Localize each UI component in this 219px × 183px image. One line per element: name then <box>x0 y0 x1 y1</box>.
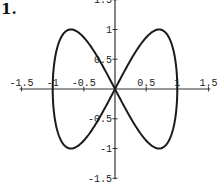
x-tick-label: -1.5 <box>10 78 34 89</box>
x-tick-label: 1.5 <box>199 78 217 89</box>
y-tick-label: -1 <box>100 144 112 155</box>
x-tick-label: -0.5 <box>72 78 96 89</box>
x-tick-label: 0.5 <box>137 78 155 89</box>
y-tick-label: -1.5 <box>88 174 112 183</box>
parametric-plot: -1.5-1-0.50.511.51.510.5-0.5-1-1.5 <box>0 0 219 183</box>
y-tick-label: 1 <box>106 25 112 36</box>
y-tick-label: 1.5 <box>94 0 112 6</box>
